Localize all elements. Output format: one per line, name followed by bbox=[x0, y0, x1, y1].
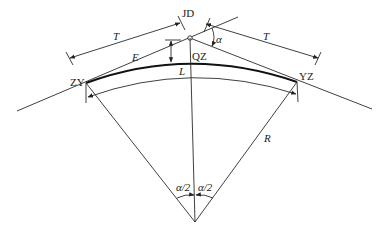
label-t-right: T bbox=[263, 30, 270, 42]
label-r: R bbox=[263, 132, 271, 144]
label-half-alpha-right: α/2 bbox=[198, 181, 213, 193]
curve-elements-diagram: JD ZY YZ QZ T T E L R α α/2 α/2 bbox=[0, 0, 380, 235]
label-yz: YZ bbox=[299, 70, 314, 82]
half-alpha-arc-left bbox=[177, 195, 194, 198]
alpha-arc bbox=[212, 28, 214, 46]
label-zy: ZY bbox=[70, 76, 85, 88]
t-right-tick-b bbox=[315, 52, 321, 65]
label-t-left: T bbox=[113, 30, 120, 42]
curve-length-arc bbox=[88, 78, 296, 97]
half-alpha-arc-right bbox=[196, 195, 213, 198]
radius-left bbox=[86, 83, 195, 222]
label-qz: QZ bbox=[192, 50, 207, 62]
radius-right bbox=[195, 82, 297, 222]
label-alpha: α bbox=[216, 33, 222, 45]
label-l: L bbox=[178, 65, 185, 77]
yz-tick bbox=[297, 82, 298, 102]
label-jd: JD bbox=[182, 7, 194, 19]
right-tangent-line bbox=[190, 38, 372, 109]
label-e: E bbox=[131, 51, 139, 63]
t-left-dimension bbox=[70, 23, 180, 58]
label-half-alpha-left: α/2 bbox=[176, 181, 191, 193]
t-right-dimension bbox=[206, 24, 318, 58]
t-left-tick-a bbox=[66, 52, 73, 65]
